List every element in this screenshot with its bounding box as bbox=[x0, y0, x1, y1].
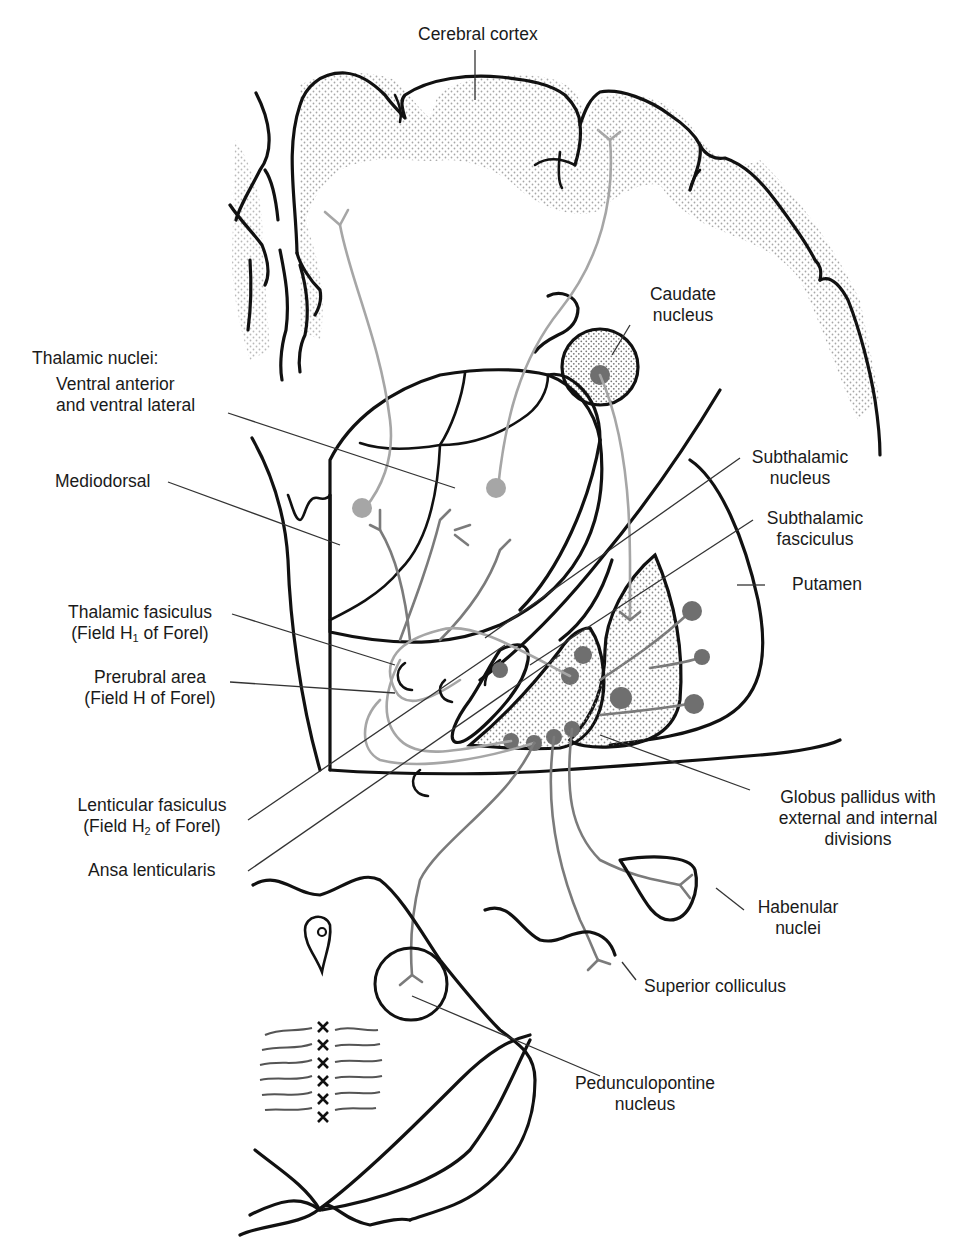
label-mediodorsal: Mediodorsal bbox=[55, 471, 150, 492]
label-habenular-line2: nuclei bbox=[748, 918, 848, 939]
label-pedunculopontine-line2: nucleus bbox=[570, 1094, 720, 1115]
label-caudate-line1: Caudate bbox=[628, 284, 738, 305]
text: of Forel) bbox=[151, 816, 221, 836]
label-lenticular-fasiculus-line1: Lenticular fasiculus bbox=[62, 795, 242, 816]
text: of Forel) bbox=[139, 623, 209, 643]
label-habenular-line1: Habenular bbox=[748, 897, 848, 918]
label-cerebral-cortex: Cerebral cortex bbox=[418, 24, 538, 45]
label-subthalamic-fasciculus: Subthalamic fasciculus bbox=[755, 508, 875, 550]
decussation-marks bbox=[318, 1022, 328, 1122]
cerebral-cortex bbox=[230, 50, 880, 455]
label-va-vl: Ventral anterior and ventral lateral bbox=[56, 374, 195, 416]
label-habenular-nuclei: Habenular nuclei bbox=[748, 897, 848, 939]
label-globus-pallidus-line3: divisions bbox=[758, 829, 958, 850]
label-subthalamic-fasciculus-line2: fasciculus bbox=[755, 529, 875, 550]
brainstem bbox=[240, 857, 696, 1235]
label-superior-colliculus: Superior colliculus bbox=[644, 976, 786, 997]
label-ansa-lenticularis: Ansa lenticularis bbox=[88, 860, 215, 881]
label-va-vl-line1: Ventral anterior bbox=[56, 374, 195, 395]
caudate-nucleus bbox=[535, 293, 638, 405]
label-thalamic-fasiculus-line1: Thalamic fasiculus bbox=[50, 602, 230, 623]
text: (Field H bbox=[83, 816, 144, 836]
label-subthalamic-nucleus-line2: nucleus bbox=[740, 468, 860, 489]
label-pedunculopontine-line1: Pedunculopontine bbox=[570, 1073, 720, 1094]
third-ventricle bbox=[252, 438, 330, 770]
label-globus-pallidus-line1: Globus pallidus with bbox=[758, 787, 958, 808]
text: (Field H bbox=[71, 623, 132, 643]
label-va-vl-line2: and ventral lateral bbox=[56, 395, 195, 416]
label-thalamic-fasiculus-line2: (Field H1 of Forel) bbox=[50, 623, 230, 644]
label-caudate-line2: nucleus bbox=[628, 305, 738, 326]
label-thalamic-fasiculus: Thalamic fasiculus (Field H1 of Forel) bbox=[50, 602, 230, 644]
label-lenticular-fasiculus: Lenticular fasiculus (Field H2 of Forel) bbox=[62, 795, 242, 837]
label-lenticular-fasiculus-line2: (Field H2 of Forel) bbox=[62, 816, 242, 837]
label-putamen: Putamen bbox=[792, 574, 862, 595]
label-prerubral-line2: (Field H of Forel) bbox=[70, 688, 230, 709]
label-globus-pallidus: Globus pallidus with external and intern… bbox=[758, 787, 958, 850]
label-pedunculopontine-nucleus: Pedunculopontine nucleus bbox=[570, 1073, 720, 1115]
label-thalamic-nuclei: Thalamic nuclei: bbox=[32, 348, 158, 369]
label-prerubral-line1: Prerubral area bbox=[70, 667, 230, 688]
label-subthalamic-nucleus-line1: Subthalamic bbox=[740, 447, 860, 468]
label-subthalamic-nucleus: Subthalamic nucleus bbox=[740, 447, 860, 489]
label-caudate-nucleus: Caudate nucleus bbox=[628, 284, 738, 326]
label-subthalamic-fasciculus-line1: Subthalamic bbox=[755, 508, 875, 529]
label-globus-pallidus-line2: external and internal bbox=[758, 808, 958, 829]
label-prerubral-area: Prerubral area (Field H of Forel) bbox=[70, 667, 230, 709]
